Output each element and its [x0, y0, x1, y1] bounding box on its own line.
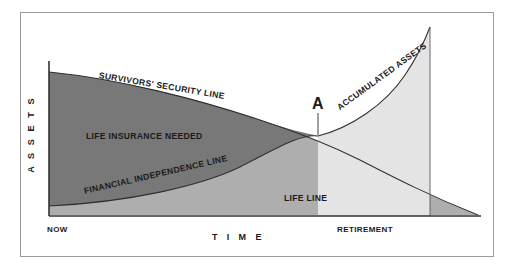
- life-insurance-needed-label: LIFE INSURANCE NEEDED: [86, 131, 203, 141]
- x-tick-label-retirement: RETIREMENT: [337, 225, 393, 234]
- x-axis-label: T I M E: [212, 232, 265, 242]
- chart-container: A S S E T S T I M E NOW RETIREMENT SURVI…: [0, 0, 519, 273]
- x-tick-label-now: NOW: [47, 225, 68, 234]
- y-axis-label: A S S E T S: [26, 96, 36, 173]
- life-line-label: LIFE LINE: [284, 193, 327, 203]
- point-a-annotation: A: [312, 95, 324, 113]
